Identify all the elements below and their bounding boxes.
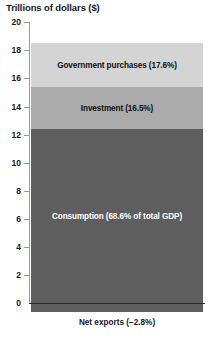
tick-label-0: 0 <box>0 299 21 308</box>
tick-mark-20 <box>24 22 29 23</box>
tick-label-20: 20 <box>0 18 21 27</box>
bar-segment-government-purchases-label: Government purchases (17.6%) <box>57 61 177 70</box>
bar-segment-consumption: Consumption (68.6% of total GDP) <box>31 129 203 303</box>
bar-segment-government-purchases: Government purchases (17.6%) <box>31 43 203 87</box>
tick-mark-6 <box>24 219 29 220</box>
tick-label-4: 4 <box>0 243 21 252</box>
tick-label-18: 18 <box>0 46 21 55</box>
tick-mark-12 <box>24 135 29 136</box>
bar-segment-consumption-label: Consumption (68.6% of total GDP) <box>52 212 182 221</box>
tick-label-10: 10 <box>0 159 21 168</box>
tick-mark-10 <box>24 163 29 164</box>
tick-mark-14 <box>24 107 29 108</box>
bar-segment-investment: Investment (16.5%) <box>31 87 203 129</box>
tick-mark-16 <box>24 78 29 79</box>
tick-label-6: 6 <box>0 215 21 224</box>
tick-label-12: 12 <box>0 131 21 140</box>
gdp-components-stacked-bar-chart: Trillions of dollars ($) 20 18 16 14 12 … <box>0 0 216 338</box>
tick-mark-4 <box>24 247 29 248</box>
tick-label-8: 8 <box>0 187 21 196</box>
tick-mark-2 <box>24 275 29 276</box>
net-exports-caption: Net exports (−2.8%) <box>31 318 203 327</box>
zero-baseline <box>29 303 205 304</box>
bar-segment-net-exports <box>31 303 203 312</box>
tick-label-16: 16 <box>0 74 21 83</box>
bar-segment-investment-label: Investment (16.5%) <box>81 104 153 113</box>
tick-mark-8 <box>24 191 29 192</box>
tick-label-2: 2 <box>0 271 21 280</box>
tick-label-14: 14 <box>0 103 21 112</box>
tick-mark-18 <box>24 50 29 51</box>
